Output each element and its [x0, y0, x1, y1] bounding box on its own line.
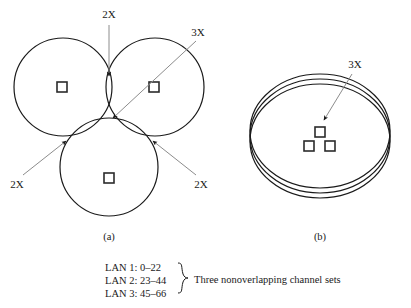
figure-canvas: 2X 3X 2X 2X (a) 3X (b) LAN 1: 0–22 LAN 2…	[0, 0, 411, 308]
caption-panel-b: (b)	[314, 231, 327, 243]
legend-row-lan3: LAN 3: 45–66	[105, 288, 166, 299]
legend-row-lan2: LAN 2: 23–44	[105, 275, 167, 286]
label-3x: 3X	[191, 26, 205, 38]
label-2x-bottom-right: 2X	[194, 178, 208, 190]
label-3x-panel-b: 3X	[348, 58, 362, 70]
access-point-square	[315, 127, 325, 137]
legend-row-lan1: LAN 1: 0–22	[105, 262, 161, 273]
caption-panel-a: (a)	[103, 231, 115, 243]
legend-brace-note: Three nonoverlapping channel sets	[194, 274, 341, 285]
label-2x-bottom-left: 2X	[10, 178, 24, 190]
label-2x-top: 2X	[102, 8, 116, 20]
access-point-square	[57, 82, 67, 92]
access-point-square	[104, 173, 114, 183]
access-point-square	[304, 141, 314, 151]
access-point-square	[325, 141, 335, 151]
